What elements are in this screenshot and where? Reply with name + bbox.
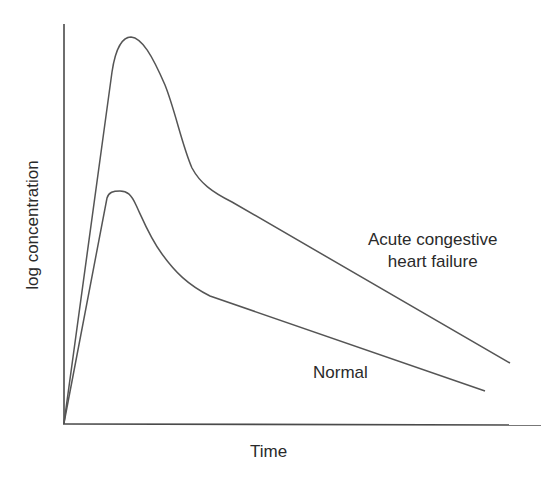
x-axis-label: Time (250, 442, 287, 462)
chf-annotation-line1: Acute congestive (368, 229, 497, 251)
chf-annotation-line2: heart failure (368, 251, 497, 273)
normal-annotation: Normal (313, 363, 368, 383)
chf-annotation: Acute congestive heart failure (368, 229, 497, 273)
y-axis-label: log concentration (23, 160, 43, 289)
pharmacokinetic-chart: Time log concentration Acute congestive … (0, 0, 558, 481)
x-axis (63, 424, 541, 425)
